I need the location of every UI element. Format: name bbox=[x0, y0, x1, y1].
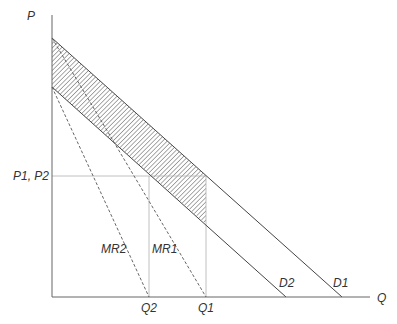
mr2-label: MR2 bbox=[101, 242, 127, 256]
x-axis-label: Q bbox=[377, 291, 386, 305]
demand-shift-diagram: P Q P1, P2 Q2 Q1 MR2 MR1 D2 D1 bbox=[0, 0, 397, 324]
d1-label: D1 bbox=[333, 276, 348, 290]
y-axis-label: P bbox=[27, 9, 35, 23]
mr1-label: MR1 bbox=[152, 242, 177, 256]
hatched-area bbox=[52, 38, 206, 224]
d1-curve bbox=[52, 38, 342, 297]
q2-label: Q2 bbox=[141, 301, 157, 315]
d2-label: D2 bbox=[279, 276, 295, 290]
price-label: P1, P2 bbox=[13, 169, 49, 183]
d2-curve bbox=[52, 87, 286, 297]
q1-label: Q1 bbox=[198, 301, 214, 315]
